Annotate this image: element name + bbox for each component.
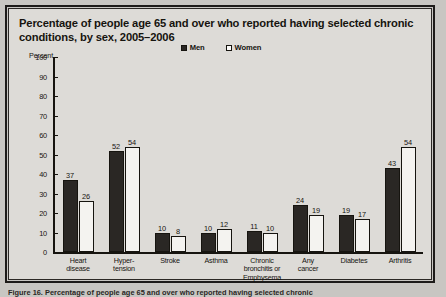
bar-women: 17 (355, 219, 370, 252)
bar-value-label: 52 (112, 142, 120, 151)
y-axis-tick-label: 30 (39, 189, 47, 198)
bar-value-label: 10 (204, 224, 212, 233)
bar-group: 1012 (193, 57, 239, 252)
x-axis-categories: HeartdiseaseHyper-tensionStrokeAsthmaChr… (55, 257, 423, 291)
bar-value-label: 10 (266, 224, 274, 233)
bar-group: 3726 (55, 57, 101, 252)
bar-women: 26 (79, 201, 94, 252)
open-square-icon (226, 45, 232, 51)
bar-group: 2419 (285, 57, 331, 252)
bar-value-label: 11 (250, 222, 257, 231)
bar-value-label: 26 (82, 192, 90, 201)
x-axis-category-label: Anycancer (285, 257, 331, 291)
x-axis-category-label: Asthma (193, 257, 239, 291)
plot-area: 0102030405060708090100 37265254108101211… (19, 57, 423, 255)
bar-men: 10 (201, 233, 216, 253)
bar-men: 52 (109, 151, 124, 252)
x-axis-category-label: Heartdisease (55, 257, 101, 291)
bar-women: 8 (171, 236, 186, 252)
x-axis-category-label: Chronicbronchitis orEmphysema (239, 257, 285, 291)
y-axis-tick-label: 60 (39, 131, 47, 140)
bar-value-label: 37 (66, 171, 74, 180)
bar-value-label: 17 (358, 210, 366, 219)
bar-women: 54 (125, 147, 140, 252)
x-axis-category-label: Hyper-tension (101, 257, 147, 291)
y-axis-tick-label: 70 (39, 111, 47, 120)
y-axis-tick-label: 20 (39, 209, 47, 218)
bar-value-label: 8 (176, 227, 180, 236)
legend-label-men: Men (190, 43, 205, 52)
bar-value-label: 54 (404, 138, 412, 147)
figure-caption: Figure 16. Percentage of people age 65 a… (8, 288, 438, 297)
bar-men: 10 (155, 233, 170, 253)
bar-value-label: 19 (312, 206, 320, 215)
bar-value-label: 24 (296, 196, 304, 205)
y-axis-tick-label: 40 (39, 170, 47, 179)
bar-group: 1917 (331, 57, 377, 252)
figure-title: Percentage of people age 65 and over who… (19, 17, 414, 44)
y-axis-tick-label: 0 (43, 248, 47, 257)
bar-value-label: 12 (220, 220, 228, 229)
bar-men: 43 (385, 168, 400, 252)
bar-groups: 3726525410810121110241919174354 (55, 57, 423, 252)
chart-legend: Men Women (9, 43, 433, 52)
bar-group: 5254 (101, 57, 147, 252)
bar-value-label: 10 (158, 224, 166, 233)
bar-value-label: 19 (342, 206, 350, 215)
x-axis-category-label: Diabetes (331, 257, 377, 291)
bar-value-label: 54 (128, 138, 136, 147)
bar-women: 12 (217, 229, 232, 252)
bar-men: 37 (63, 180, 78, 252)
bar-men: 11 (247, 231, 262, 252)
legend-item-men: Men (181, 43, 205, 52)
bar-women: 54 (401, 147, 416, 252)
y-axis-tick-label: 80 (39, 92, 47, 101)
figure-frame: Percentage of people age 65 and over who… (8, 8, 432, 280)
bar-men: 19 (339, 215, 354, 252)
x-axis-category-label: Stroke (147, 257, 193, 291)
bar-group: 108 (147, 57, 193, 252)
x-axis-category-label: Arthritis (377, 257, 423, 291)
y-axis-tick-label: 90 (39, 72, 47, 81)
filled-square-icon (181, 45, 187, 51)
bar-value-label: 43 (388, 159, 396, 168)
y-axis-tick-label: 100 (35, 53, 47, 62)
legend-label-women: Women (235, 43, 262, 52)
bar-group: 1110 (239, 57, 285, 252)
bar-group: 4354 (377, 57, 423, 252)
y-axis: 0102030405060708090100 (19, 57, 53, 253)
x-axis-line (53, 252, 423, 254)
bar-women: 10 (263, 233, 278, 253)
bar-men: 24 (293, 205, 308, 252)
y-axis-tick-label: 10 (39, 228, 47, 237)
y-axis-tick-label: 50 (39, 150, 47, 159)
legend-item-women: Women (226, 43, 262, 52)
bar-women: 19 (309, 215, 324, 252)
